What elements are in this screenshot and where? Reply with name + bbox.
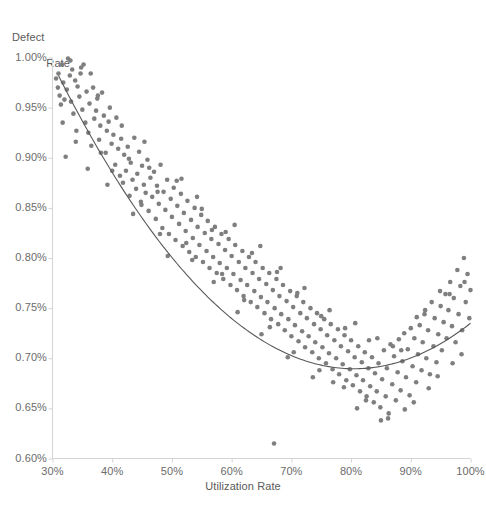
data-point	[92, 116, 97, 121]
data-point	[327, 351, 332, 356]
data-point	[364, 394, 369, 399]
data-point	[142, 183, 147, 188]
data-point	[71, 111, 76, 116]
data-point	[272, 441, 277, 446]
y-tick-label: 0.75%	[1, 301, 47, 313]
data-point	[73, 139, 78, 144]
data-point	[411, 400, 416, 405]
data-point	[124, 168, 129, 173]
data-point	[282, 328, 287, 333]
x-axis-title: Utilization Rate	[0, 480, 486, 492]
data-point	[320, 345, 325, 350]
data-point	[344, 378, 349, 383]
data-point	[355, 406, 360, 411]
data-point	[284, 299, 289, 304]
data-point	[179, 192, 184, 197]
x-tick-label: 90%	[388, 465, 434, 477]
data-point	[167, 232, 172, 237]
data-point	[221, 277, 226, 282]
data-point	[327, 308, 332, 313]
data-point	[279, 312, 284, 317]
data-point	[220, 272, 225, 277]
x-tick-label: 50%	[149, 465, 195, 477]
data-point	[311, 375, 316, 380]
scatter-chart: Defect Rate 0.60%0.65%0.70%0.75%0.80%0.8…	[0, 0, 486, 510]
data-point	[420, 340, 425, 345]
data-point	[276, 322, 281, 327]
data-point	[440, 348, 445, 353]
data-point	[257, 277, 262, 282]
data-point	[119, 136, 124, 141]
data-point	[300, 329, 305, 334]
data-point	[226, 237, 231, 242]
data-point	[259, 295, 264, 300]
data-point	[152, 169, 157, 174]
data-point	[395, 370, 400, 375]
data-point	[459, 352, 464, 357]
data-point	[135, 171, 140, 176]
data-point	[155, 184, 160, 189]
data-point	[73, 78, 78, 83]
data-point	[237, 260, 242, 265]
data-point	[119, 123, 124, 128]
data-point	[75, 84, 80, 89]
x-tick-label: 100%	[448, 465, 486, 477]
data-point	[281, 283, 286, 288]
data-point	[410, 364, 415, 369]
data-point	[441, 320, 446, 325]
data-point	[140, 163, 145, 168]
data-point	[414, 315, 419, 320]
data-point	[429, 300, 434, 305]
data-point	[334, 356, 339, 361]
data-point	[275, 270, 280, 275]
data-point	[168, 197, 173, 202]
data-point	[328, 322, 333, 327]
data-point	[199, 207, 204, 212]
data-point	[325, 333, 330, 338]
data-point	[399, 348, 404, 353]
data-point	[57, 93, 62, 98]
data-point	[87, 101, 92, 106]
data-point	[146, 209, 151, 214]
data-point	[68, 58, 73, 63]
data-point	[105, 183, 110, 188]
data-point	[291, 305, 296, 310]
data-point	[371, 400, 376, 405]
x-tick-marks	[53, 459, 471, 463]
data-point	[127, 156, 132, 161]
data-point	[122, 152, 127, 157]
data-point	[209, 237, 214, 242]
data-point	[88, 71, 93, 76]
data-point	[319, 314, 324, 319]
data-point	[195, 225, 200, 230]
data-point	[148, 176, 153, 181]
data-point	[380, 377, 385, 382]
data-point	[351, 383, 356, 388]
data-point	[156, 202, 161, 207]
data-point	[407, 393, 412, 398]
data-point	[229, 254, 234, 259]
data-point	[78, 71, 83, 76]
data-point	[94, 108, 99, 113]
data-point	[60, 120, 65, 125]
data-point	[378, 405, 383, 410]
data-point	[342, 333, 347, 338]
data-point	[363, 350, 368, 355]
data-point	[150, 195, 155, 200]
x-tick-label: 30%	[30, 465, 76, 477]
data-point	[74, 128, 79, 133]
data-point	[462, 256, 467, 261]
data-point	[296, 339, 301, 344]
data-point	[184, 241, 189, 246]
data-point	[232, 223, 237, 228]
data-point	[194, 255, 199, 260]
data-point	[456, 312, 461, 317]
data-point	[128, 160, 133, 165]
data-point	[349, 338, 354, 343]
data-point	[403, 407, 408, 412]
data-point	[467, 316, 472, 321]
data-point	[79, 65, 84, 70]
data-point	[398, 388, 403, 393]
data-point	[233, 243, 238, 248]
data-point	[252, 289, 257, 294]
